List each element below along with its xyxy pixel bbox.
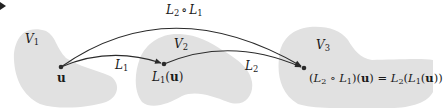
space-label-v1: V1 [25,33,39,46]
point-label-l1u: L1(u) [152,71,183,84]
point-label-u: u [57,72,66,84]
point-label-result: (L2 ∘ L1)(u) = L2(L1(u)) [309,73,443,86]
map-label-composite: L2∘L1 [166,4,203,17]
point-l1u [162,62,167,67]
space-label-v3: V3 [316,39,330,52]
arrow-right-icon [0,2,6,10]
point-u [59,65,64,70]
map-label-l2: L2 [245,60,258,73]
space-label-v2: V2 [174,38,188,51]
map-label-l1: L1 [115,59,128,72]
point-result [302,66,307,71]
space-v3-blob [279,27,433,108]
